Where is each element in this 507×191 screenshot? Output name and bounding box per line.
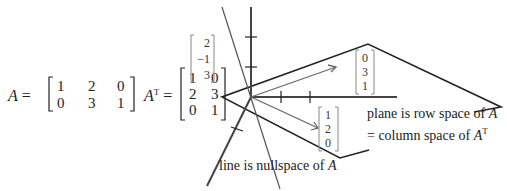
- equals-sign: =: [163, 87, 172, 104]
- a-entry: 2: [88, 78, 96, 94]
- matrix-at-label: AT =: [144, 87, 172, 105]
- plane-label2-var: A: [474, 128, 483, 143]
- row2-vector-entries: 0 3 1: [362, 51, 368, 93]
- plane-label-line1: plane is row space of A: [367, 106, 497, 122]
- axis-ticks: [231, 37, 310, 131]
- row2-entry: 0: [362, 51, 368, 65]
- nullspace-entry: −1: [197, 52, 210, 66]
- line-label-prefix: line is: [219, 158, 256, 173]
- at-entry: 1: [211, 102, 219, 118]
- transpose-superscript: T: [154, 87, 160, 97]
- matrix-a-entries: 1 2 0 0 3 1: [57, 78, 125, 111]
- nullspace-line-label: line is nullspace of A: [219, 158, 336, 174]
- row1-vector-entries: 1 2 0: [325, 108, 331, 150]
- row1-entry: 1: [325, 108, 331, 122]
- tick: [231, 127, 243, 131]
- a-entry: 0: [57, 95, 65, 111]
- a-entry: 0: [117, 78, 125, 94]
- row2-entry: 1: [362, 79, 368, 93]
- plane-label-line2: = column space of AT: [367, 126, 488, 144]
- at-entry: 3: [211, 86, 219, 102]
- at-entry: 0: [189, 102, 197, 118]
- plane-label2-sup: T: [482, 126, 488, 136]
- matrix-at-name: A: [144, 87, 154, 104]
- plane-label-var: A: [489, 106, 498, 121]
- arrow-row1: [251, 97, 318, 128]
- row1-entry: 2: [325, 122, 331, 136]
- line-label-text: nullspace of: [256, 158, 328, 173]
- nullspace-vector-entries: 2 −1 3: [197, 36, 210, 82]
- row2-entry: 3: [362, 65, 368, 79]
- at-entry: 0: [211, 70, 219, 86]
- a-entry: 3: [88, 95, 96, 111]
- row1-entry: 0: [325, 136, 331, 150]
- line-label-var: A: [328, 158, 337, 173]
- nullspace-entry: 3: [204, 68, 210, 82]
- a-entry: 1: [57, 78, 65, 94]
- plane-label-text: plane is row space of: [367, 106, 489, 121]
- plane-label2-text: = column space of: [367, 128, 474, 143]
- at-entry: 2: [189, 86, 197, 102]
- a-entry: 1: [117, 95, 125, 111]
- nullspace-entry: 2: [204, 36, 210, 50]
- at-entry: 1: [189, 70, 197, 86]
